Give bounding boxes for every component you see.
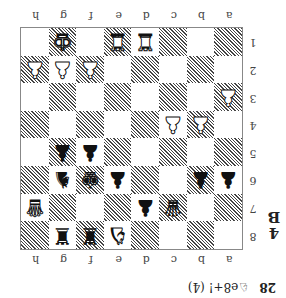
square-d6 [132, 166, 160, 194]
square-e5 [104, 139, 132, 167]
square-c8 [159, 221, 187, 249]
rank-labels: 8 7 6 5 4 3 2 1 [246, 29, 260, 250]
square-a4 [214, 111, 242, 139]
square-g7 [49, 194, 77, 222]
black-queen-icon: ♛ [163, 196, 184, 219]
square-f6: ♚ [76, 166, 104, 194]
square-c3 [159, 83, 187, 111]
diagram-label-letter: B [266, 209, 282, 225]
black-rook-icon: ♜ [80, 224, 101, 247]
square-d1: ♜ [132, 28, 160, 56]
rank-label: 8 [246, 222, 260, 250]
square-f3 [76, 83, 104, 111]
square-f7 [76, 194, 104, 222]
square-c2 [159, 56, 187, 84]
square-b4: ♟ [187, 111, 215, 139]
white-rook-icon: ♜ [107, 30, 128, 53]
square-h2: ♟ [21, 56, 49, 84]
black-pawn-icon: ♟ [80, 141, 101, 164]
square-e4 [104, 111, 132, 139]
square-h8 [21, 221, 49, 249]
square-g4 [49, 111, 77, 139]
rank-label: 7 [246, 195, 260, 223]
black-pawn-icon: ♟ [218, 168, 239, 191]
file-label: c [160, 9, 188, 22]
file-label: h [22, 253, 50, 266]
diagram-label: 4 B [266, 209, 282, 241]
square-e1: ♜ [104, 28, 132, 56]
square-a7 [214, 194, 242, 222]
white-knight-icon: ♞ [107, 224, 128, 247]
square-h6 [21, 166, 49, 194]
square-h3 [21, 83, 49, 111]
square-c5 [159, 139, 187, 167]
square-h5 [21, 139, 49, 167]
chess-diagram-rotated: 28♘e8+! (4) 4 B a b c d e f g h 8 7 6 5 … [0, 0, 286, 298]
white-pawn-icon: ♟ [163, 113, 184, 136]
square-d3 [132, 83, 160, 111]
square-d8 [132, 221, 160, 249]
square-g2: ♟ [49, 56, 77, 84]
square-e3 [104, 83, 132, 111]
square-e6: ♟ [104, 166, 132, 194]
square-c4: ♟ [159, 111, 187, 139]
square-f4 [76, 111, 104, 139]
file-label: f [77, 253, 105, 266]
rank-label: 6 [246, 167, 260, 195]
square-e7 [104, 194, 132, 222]
black-knight-icon: ♞ [52, 168, 73, 191]
square-g3 [49, 83, 77, 111]
file-labels-top: a b c d e f g h [22, 253, 243, 266]
file-label: g [50, 253, 78, 266]
square-f2: ♟ [76, 56, 104, 84]
square-g5: ♟ [49, 139, 77, 167]
white-pawn-icon: ♟ [190, 113, 211, 136]
rank-label: 2 [246, 57, 260, 85]
white-pawn-icon: ♟ [25, 58, 46, 81]
square-b6: ♟ [187, 166, 215, 194]
file-label: c [160, 253, 188, 266]
rank-label: 4 [246, 112, 260, 140]
black-pawn-icon: ♟ [135, 196, 156, 219]
move-text: ♘e8+! (4) [188, 280, 249, 294]
square-d2 [132, 56, 160, 84]
square-c1 [159, 28, 187, 56]
file-label: a [215, 9, 243, 22]
white-pawn-icon: ♟ [80, 58, 101, 81]
file-label: d [133, 9, 161, 22]
square-f8: ♜ [76, 221, 104, 249]
square-e2 [104, 56, 132, 84]
square-b5 [187, 139, 215, 167]
square-e8: ♞ [104, 221, 132, 249]
square-d4 [132, 111, 160, 139]
white-queen-icon: ♛ [25, 196, 46, 219]
square-b7 [187, 194, 215, 222]
file-label: b [188, 253, 216, 266]
square-f5: ♟ [76, 139, 104, 167]
square-c7: ♛ [159, 194, 187, 222]
white-pawn-icon: ♟ [52, 58, 73, 81]
rank-label: 1 [246, 29, 260, 57]
square-a1 [214, 28, 242, 56]
square-h4 [21, 111, 49, 139]
square-h7: ♛ [21, 194, 49, 222]
file-label: e [105, 9, 133, 22]
white-rook-icon: ♜ [135, 30, 156, 53]
square-a8 [214, 221, 242, 249]
square-b1 [187, 28, 215, 56]
file-label: e [105, 253, 133, 266]
file-labels-bottom: a b c d e f g h [22, 9, 243, 22]
square-d5 [132, 139, 160, 167]
square-a6: ♟ [214, 166, 242, 194]
move-number: 28 [259, 280, 276, 294]
square-a2 [214, 56, 242, 84]
file-label: b [188, 9, 216, 22]
square-a5 [214, 139, 242, 167]
white-pawn-icon: ♟ [218, 86, 239, 109]
black-pawn-icon: ♟ [190, 168, 211, 191]
file-label: a [215, 253, 243, 266]
square-a3: ♟ [214, 83, 242, 111]
square-f1 [76, 28, 104, 56]
chess-board: ♞♜♜♛♟♛♟♟♟♚♞♟♟♟♟♟♟♟♟♜♜♚ [20, 27, 243, 250]
square-b8 [187, 221, 215, 249]
